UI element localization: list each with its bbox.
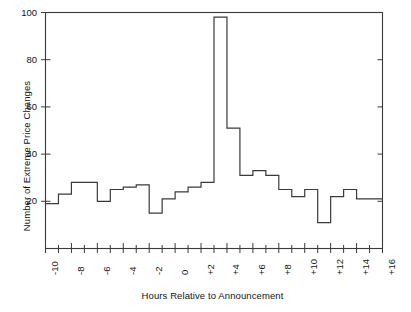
x-tick-label: +10 bbox=[309, 258, 319, 274]
x-tick-label: -2 bbox=[154, 266, 164, 274]
x-tick-label: 0 bbox=[180, 269, 190, 274]
x-tick-label: -6 bbox=[102, 266, 112, 274]
x-tick-label: -8 bbox=[76, 266, 86, 274]
x-tick-label: +14 bbox=[361, 258, 371, 274]
x-tick-label: -4 bbox=[128, 266, 138, 274]
x-axis-tick-labels: -10-8-6-4-20+2+4+6+8+10+12+14+16 bbox=[0, 0, 411, 312]
x-tick-label: +16 bbox=[387, 258, 397, 274]
x-tick-label: +4 bbox=[231, 264, 241, 275]
chart-figure: Number of Extreme Price Changes Hours Re… bbox=[0, 0, 411, 312]
x-tick-label: +8 bbox=[283, 264, 293, 275]
x-tick-label: +2 bbox=[206, 264, 216, 275]
x-tick-label: +6 bbox=[257, 264, 267, 275]
x-tick-label: +12 bbox=[335, 258, 345, 274]
x-tick-label: -10 bbox=[50, 261, 60, 275]
